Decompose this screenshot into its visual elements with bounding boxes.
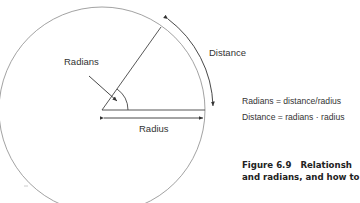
radius-label: Radius [139, 123, 169, 134]
caption-line-2: and radians, and how to [242, 171, 360, 183]
figure-caption: Figure 6.9Relationsh and radians, and ho… [242, 159, 360, 183]
formula-distance: Distance = radians · radius [242, 112, 344, 122]
radians-pointer-arrow [89, 76, 117, 101]
distance-label: Distance [209, 47, 246, 58]
angle-arc [117, 89, 128, 110]
caption-line-1: Relationsh [300, 160, 352, 170]
formula-radians: Radians = distance/radius [242, 96, 341, 106]
distance-arc-arrow [168, 19, 213, 106]
figure-number: Figure 6.9 [242, 160, 291, 170]
circle [0, 7, 205, 203]
radians-label: Radians [64, 56, 99, 67]
angled-radius-line [102, 27, 161, 110]
